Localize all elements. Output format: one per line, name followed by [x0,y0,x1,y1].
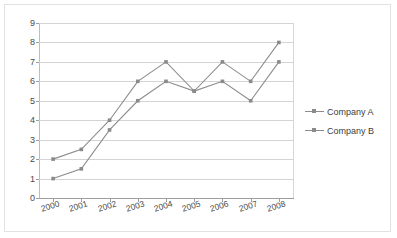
legend-item-company-a[interactable]: Company A [305,104,389,119]
y-tick-label: 9 [30,19,35,28]
y-tick-label: 3 [30,136,35,145]
data-point [277,60,281,64]
y-tick-label: 1 [30,175,35,184]
x-tick-label: 2007 [238,199,259,213]
x-tick-label: 2006 [209,199,230,213]
legend-label: Company B [327,126,374,136]
data-point [221,60,225,64]
data-point [80,167,84,171]
x-tick-label: 2000 [40,199,61,213]
y-axis-tick-labels: 9876543210 [19,23,35,198]
y-tick-label: 6 [30,77,35,86]
data-point [136,99,140,103]
data-point [136,80,140,84]
chart-container: 9876543210 20002001200220032004200520062… [4,4,391,232]
chart-legend: Company ACompany B [305,104,389,142]
data-point [51,157,55,161]
data-point [80,148,84,152]
data-point [108,118,112,122]
legend-item-company-b[interactable]: Company B [305,123,389,138]
y-tick-label: 8 [30,38,35,47]
plot-right-edge [293,23,294,198]
chart-plot [39,23,293,198]
data-point [192,89,196,93]
legend-label: Company A [327,107,374,117]
y-tick-label: 4 [30,116,35,125]
x-tick-label: 2003 [125,199,146,213]
y-tick-label: 2 [30,155,35,164]
legend-swatch-icon [305,126,324,135]
data-point [164,80,168,84]
data-point [108,128,112,132]
legend-swatch-icon [305,107,324,116]
data-point [277,41,281,45]
y-tick-label: 5 [30,97,35,106]
data-point [249,99,253,103]
y-tick-label: 7 [30,58,35,67]
x-tick-label: 2004 [153,199,174,213]
data-point [51,177,55,181]
data-point [249,80,253,84]
x-tick-label: 2001 [68,199,89,213]
series-line-a [53,62,279,179]
x-tick-label: 2008 [266,199,287,213]
x-tick-label: 2005 [181,199,202,213]
data-point [164,60,168,64]
x-tick-label: 2002 [97,199,118,213]
y-tick-label: 0 [30,194,35,203]
y-tick-mark [36,198,39,199]
series-line-b [53,42,279,159]
data-point [221,80,225,84]
